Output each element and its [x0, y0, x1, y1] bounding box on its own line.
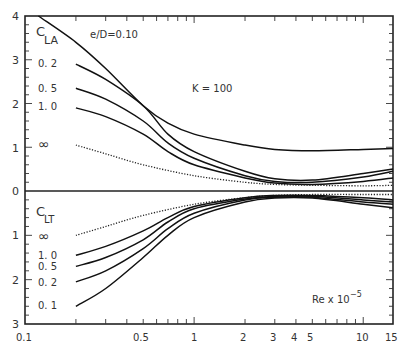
- y-label-2: 2: [12, 98, 19, 111]
- k-label: K = 100: [192, 83, 232, 94]
- label-upper-05: 0. 5: [38, 83, 57, 94]
- x-label-1: 1: [191, 332, 197, 343]
- cla-curve-02: [76, 64, 393, 180]
- y-label-lower-3: 3: [12, 318, 19, 331]
- y-label-0: 0: [12, 185, 19, 198]
- y-axis-labels: 4 3 2 1 0 1 2 3: [12, 10, 19, 331]
- y-label-lower-2: 2: [12, 274, 19, 287]
- label-lower-01: 0. 1: [38, 300, 57, 311]
- clt-curve-01: [76, 197, 393, 306]
- plot-frame: [25, 16, 393, 324]
- label-lower-10: 1. 0: [38, 250, 57, 261]
- axis-ticks: [25, 16, 393, 324]
- x-label-0.5: 0.5: [133, 332, 149, 343]
- x-label-2: 2: [240, 332, 246, 343]
- y-label-3: 3: [12, 54, 19, 67]
- x-label-10: 10: [356, 332, 369, 343]
- x-label-3: 3: [270, 332, 276, 343]
- y-label-4: 4: [12, 10, 19, 23]
- label-upper-02: 0. 2: [38, 58, 57, 69]
- label-upper-inf: ∞: [38, 136, 50, 152]
- y-label-lower-1: 1: [12, 229, 19, 242]
- label-lower-inf: ∞: [38, 228, 50, 244]
- x-label-0.1: 0.1: [16, 332, 32, 343]
- label-lower-02: 0. 2: [38, 277, 57, 288]
- clt-curve-05: [76, 196, 393, 266]
- clt-label-sub: LT: [44, 214, 55, 225]
- re-exponent: −5: [350, 290, 362, 299]
- label-lower-05: 0. 5: [38, 261, 57, 272]
- cla-label-sub: LA: [44, 34, 58, 47]
- curves: [38, 16, 393, 306]
- x-label-15: 15: [385, 332, 398, 343]
- ed-label: e/D=0.10: [90, 29, 138, 40]
- chart: 4 3 2 1 0 1 2 3 0.1 0.5 1 2 3 4 5 10 15 …: [0, 0, 409, 353]
- x-label-5: 5: [307, 332, 313, 343]
- x-label-4: 4: [291, 332, 297, 343]
- re-label: Re x 10: [312, 294, 350, 305]
- x-axis-labels: 0.1 0.5 1 2 3 4 5 10 15: [16, 332, 398, 343]
- y-label-1: 1: [12, 142, 19, 155]
- label-upper-10: 1. 0: [38, 101, 57, 112]
